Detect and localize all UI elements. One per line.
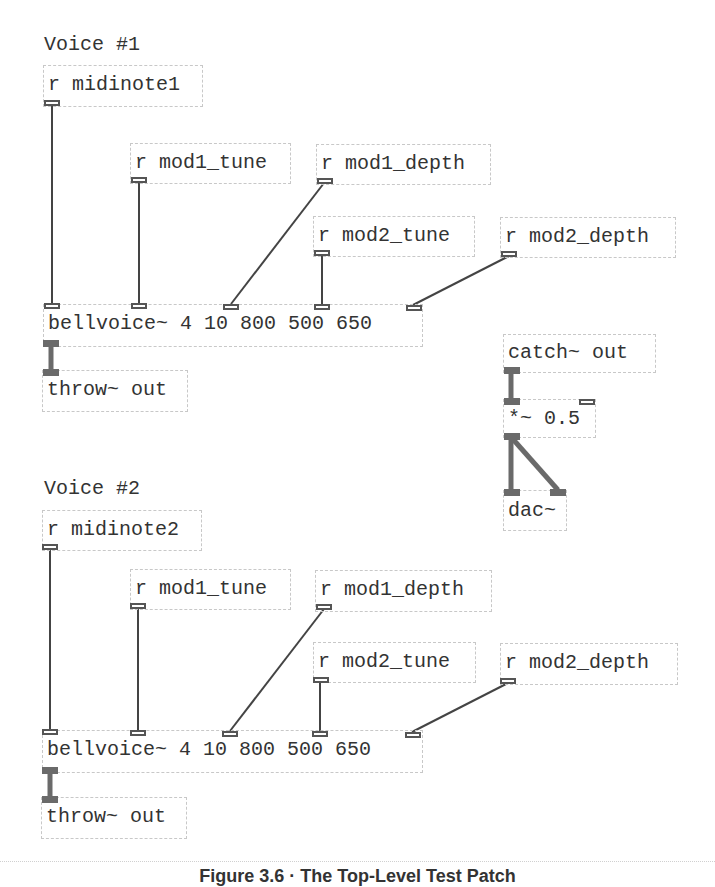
inlet-port[interactable] [131, 303, 147, 309]
signal-inlet-port[interactable] [42, 796, 58, 803]
receive-mod1-tune-object[interactable]: r mod1_tune [130, 569, 291, 610]
inlet-port[interactable] [406, 305, 422, 311]
outlet-port[interactable] [500, 678, 516, 684]
signal-outlet-port[interactable] [504, 433, 520, 440]
signal-inlet-port[interactable] [504, 398, 520, 405]
inlet-port[interactable] [130, 730, 146, 736]
receive-midinote1-object[interactable]: r midinote1 [43, 65, 203, 107]
inlet-port[interactable] [223, 304, 239, 310]
inlet-port[interactable] [42, 729, 58, 735]
outlet-port[interactable] [44, 100, 60, 106]
outlet-port[interactable] [317, 178, 333, 184]
outlet-port[interactable] [501, 251, 517, 257]
caption-divider [0, 861, 715, 862]
voice-1-comment: Voice #1 [44, 33, 140, 57]
receive-mod1-depth-object[interactable]: r mod1_depth [316, 144, 491, 185]
receive-mod2-depth-object[interactable]: r mod2_depth [500, 643, 678, 685]
inlet-port[interactable] [314, 304, 330, 310]
signal-outlet-port[interactable] [42, 767, 58, 774]
inlet-port[interactable] [44, 303, 60, 309]
voice-2-comment: Voice #2 [44, 477, 140, 501]
outlet-port[interactable] [131, 177, 147, 183]
inlet-port[interactable] [579, 399, 595, 405]
receive-mod2-tune-object[interactable]: r mod2_tune [313, 642, 476, 683]
signal-inlet-left-port[interactable] [504, 489, 520, 496]
bellvoice-object[interactable]: bellvoice~ 4 10 800 500 650 [43, 304, 423, 347]
signal-outlet-port[interactable] [43, 340, 59, 347]
signal-outlet-port[interactable] [504, 367, 520, 374]
signal-inlet-port[interactable] [43, 369, 59, 376]
inlet-port[interactable] [405, 732, 421, 738]
outlet-port[interactable] [130, 603, 146, 609]
outlet-port[interactable] [42, 544, 58, 550]
receive-mod1-tune-object[interactable]: r mod1_tune [130, 143, 291, 184]
receive-mod2-depth-object[interactable]: r mod2_depth [500, 217, 676, 258]
inlet-port[interactable] [222, 731, 238, 737]
dac-object[interactable]: dac~ [503, 490, 567, 531]
throw-out-object[interactable]: throw~ out [42, 370, 188, 412]
figure-caption: Figure 3.6 · The Top-Level Test Patch [0, 866, 715, 887]
outlet-port[interactable] [313, 677, 329, 683]
receive-mod2-tune-object[interactable]: r mod2_tune [313, 216, 475, 257]
inlet-port[interactable] [312, 731, 328, 737]
receive-midinote2-object[interactable]: r midinote2 [42, 510, 202, 551]
signal-inlet-right-port[interactable] [550, 489, 566, 496]
throw-out-object[interactable]: throw~ out [41, 797, 187, 839]
outlet-port[interactable] [316, 604, 332, 610]
receive-mod1-depth-object[interactable]: r mod1_depth [315, 570, 492, 612]
outlet-port[interactable] [314, 250, 330, 256]
catch-out-object[interactable]: catch~ out [503, 334, 656, 373]
